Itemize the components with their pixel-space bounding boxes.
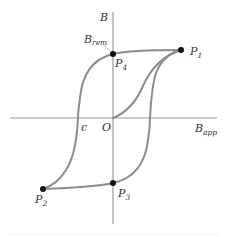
bapp-axis-label: Bapp xyxy=(194,122,217,137)
point-p2 xyxy=(40,186,46,192)
p3-label: P3 xyxy=(117,187,130,202)
b-axis-label: B xyxy=(99,11,108,24)
bottom-divider xyxy=(8,234,220,235)
p4-label: P4 xyxy=(114,57,127,72)
initial-magnetization-curve xyxy=(113,50,181,118)
ascending-branch xyxy=(43,50,181,189)
hysteresis-diagram: B Bapp O c Brem P1 P4 P2 P3 xyxy=(0,0,228,237)
origin-label: O xyxy=(102,121,111,134)
coercive-label: c xyxy=(81,121,87,134)
brem-label: Brem xyxy=(83,33,107,47)
descending-branch xyxy=(43,50,181,189)
p2-label: P2 xyxy=(34,193,47,208)
point-p3 xyxy=(110,180,116,186)
point-p1 xyxy=(178,47,184,53)
p1-label: P1 xyxy=(189,45,202,60)
